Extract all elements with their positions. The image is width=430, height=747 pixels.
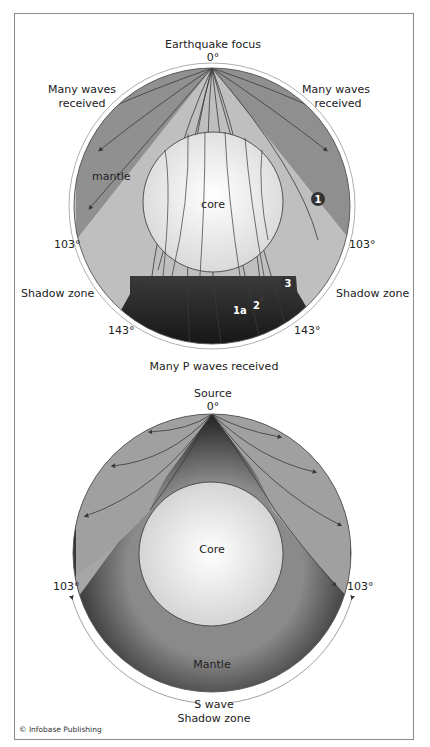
source-label: Source xyxy=(194,387,232,400)
right-received-line2: received xyxy=(314,97,361,110)
s-left-103-label: 103° xyxy=(53,580,80,593)
copyright-credit: © Infobase Publishing xyxy=(19,725,102,734)
core-label: core xyxy=(201,198,225,211)
s-shadow-zone-label: Shadow zone xyxy=(177,712,250,725)
s-right-103-label: 103° xyxy=(347,580,374,593)
s-wave-label: S wave xyxy=(194,698,234,711)
left-103-label: 103° xyxy=(54,238,81,251)
focus-angle: 0° xyxy=(207,51,220,64)
marker-3: 3 xyxy=(285,278,292,289)
marker-1: 1 xyxy=(315,194,322,205)
source-angle: 0° xyxy=(207,400,220,413)
seismic-diagram: 1 3 1a 2 Earthquake focus 0° Many waves … xyxy=(0,0,430,747)
right-shadow-zone-label: Shadow zone xyxy=(336,287,409,300)
path-label-1a: 1a xyxy=(233,305,247,316)
right-143-label: 143° xyxy=(294,324,321,337)
left-received-line2: received xyxy=(58,97,105,110)
left-143-label: 143° xyxy=(108,324,135,337)
s-core-label: Core xyxy=(199,543,225,556)
earthquake-focus-label: Earthquake focus xyxy=(165,38,261,51)
mantle-label: mantle xyxy=(92,170,131,183)
left-received-line1: Many waves xyxy=(48,83,116,96)
path-label-2: 2 xyxy=(253,300,260,311)
s-mantle-label: Mantle xyxy=(193,658,231,671)
right-received-line1: Many waves xyxy=(302,83,370,96)
left-shadow-zone-label: Shadow zone xyxy=(21,287,94,300)
right-103-label: 103° xyxy=(349,238,376,251)
many-p-waves-label: Many P waves received xyxy=(150,360,279,373)
